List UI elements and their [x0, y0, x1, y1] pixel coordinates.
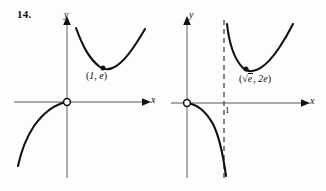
x-axis-arrowhead [301, 99, 310, 107]
y-axis-label: y [189, 9, 193, 20]
figure-sheet: 14. y x (1, e) 16. [0, 0, 326, 191]
minimum-point-marker [244, 67, 249, 72]
minimum-point-label: (1, e) [86, 70, 107, 81]
radicand-value: e [248, 73, 253, 85]
x-axis-label: x [151, 94, 155, 105]
radical-sign: √ [242, 74, 248, 84]
point-label-y-value: 2e [258, 73, 267, 84]
x-axis-arrowhead [142, 98, 151, 106]
origin-open-circle [64, 99, 71, 106]
square-root-icon: √e [242, 72, 253, 85]
figure-16: 16. y x 1 (√e, 2e) [163, 0, 326, 191]
minimum-point-label: (√e, 2e) [239, 72, 271, 85]
y-axis-label: y [64, 9, 68, 20]
x-axis-label: x [310, 95, 314, 106]
curve-upper-branch [76, 28, 145, 69]
figure-16-plot [163, 0, 326, 191]
point-label-close-paren: ) [104, 70, 107, 81]
curve-left-branch [187, 103, 226, 176]
figure-14: 14. y x (1, e) [0, 0, 163, 191]
figure-14-plot [0, 0, 163, 191]
curve-right-branch [227, 24, 293, 71]
origin-open-circle [184, 100, 191, 107]
curve-lower-left-branch [18, 102, 67, 166]
x-tick-label-1: 1 [225, 105, 230, 115]
point-label-close-paren: ) [268, 73, 271, 84]
